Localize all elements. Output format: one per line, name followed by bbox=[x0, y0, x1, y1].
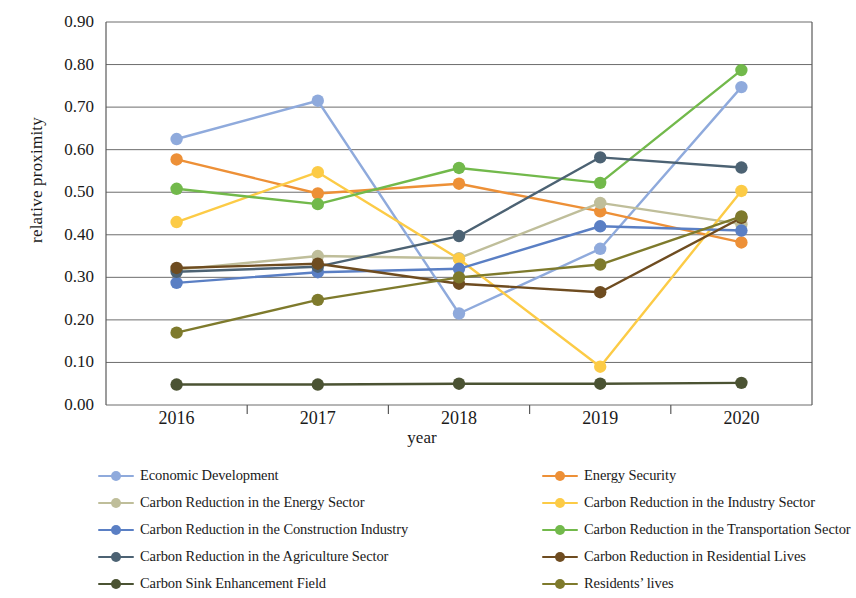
data-point bbox=[170, 216, 182, 228]
legend-item[interactable]: Energy Security bbox=[542, 462, 856, 489]
data-point bbox=[594, 361, 606, 373]
x-axis-title: year bbox=[0, 428, 844, 448]
data-point bbox=[312, 187, 324, 199]
legend-item[interactable]: Economic Development bbox=[98, 462, 518, 489]
data-point bbox=[735, 185, 747, 197]
data-point bbox=[594, 220, 606, 232]
legend-item[interactable]: Carbon Reduction in the Energy Sector bbox=[98, 489, 518, 516]
y-axis-title: relative proximity bbox=[27, 70, 47, 290]
data-point bbox=[594, 378, 606, 390]
legend-dot-icon bbox=[111, 525, 121, 535]
y-axis-tick-label: 0.10 bbox=[22, 353, 94, 370]
data-point bbox=[312, 166, 324, 178]
legend-item[interactable]: Carbon Reduction in the Transportation S… bbox=[542, 516, 856, 543]
chart-legend: Economic DevelopmentCarbon Reduction in … bbox=[0, 462, 844, 598]
x-axis-tick-label: 2019 bbox=[560, 409, 640, 427]
gridlines bbox=[106, 22, 812, 405]
data-point bbox=[170, 277, 182, 289]
legend-label: Carbon Reduction in Residential Lives bbox=[584, 548, 806, 565]
data-point bbox=[735, 236, 747, 248]
data-point bbox=[170, 133, 182, 145]
data-point bbox=[594, 258, 606, 270]
data-point bbox=[735, 64, 747, 76]
legend-dot-icon bbox=[555, 525, 565, 535]
data-point bbox=[594, 243, 606, 255]
y-axis-tick-label: 0.90 bbox=[22, 13, 94, 30]
legend-label: Carbon Sink Enhancement Field bbox=[140, 575, 326, 592]
data-point bbox=[312, 258, 324, 270]
legend-dot-icon bbox=[111, 471, 121, 481]
series-8 bbox=[170, 377, 747, 391]
data-point bbox=[453, 307, 465, 319]
legend-label: Economic Development bbox=[140, 467, 279, 484]
legend-item[interactable]: Carbon Reduction in the Agriculture Sect… bbox=[98, 543, 518, 570]
data-point bbox=[735, 81, 747, 93]
data-point bbox=[170, 153, 182, 165]
y-axis-tick-label: 0.20 bbox=[22, 311, 94, 328]
data-point bbox=[735, 377, 747, 389]
data-point bbox=[735, 210, 747, 222]
data-point bbox=[170, 262, 182, 274]
legend-dot-icon bbox=[555, 498, 565, 508]
legend-marker-icon bbox=[98, 523, 134, 537]
legend-item[interactable]: Carbon Reduction in the Industry Sector bbox=[542, 489, 856, 516]
legend-dot-icon bbox=[555, 471, 565, 481]
legend-label: Carbon Reduction in the Agriculture Sect… bbox=[140, 548, 388, 565]
legend-item[interactable]: Residents’ lives bbox=[542, 570, 856, 597]
legend-marker-icon bbox=[98, 577, 134, 591]
x-axis-tick-label: 2017 bbox=[278, 409, 358, 427]
legend-item[interactable]: Carbon Sink Enhancement Field bbox=[98, 570, 518, 597]
legend-marker-icon bbox=[542, 577, 578, 591]
y-axis-tick-label: 0.00 bbox=[22, 396, 94, 413]
legend-item[interactable]: Carbon Reduction in Residential Lives bbox=[542, 543, 856, 570]
x-axis-tick-label: 2016 bbox=[137, 409, 217, 427]
legend-marker-icon bbox=[542, 523, 578, 537]
legend-dot-icon bbox=[555, 552, 565, 562]
data-point bbox=[453, 178, 465, 190]
x-axis-tick-label: 2020 bbox=[701, 409, 781, 427]
legend-dot-icon bbox=[111, 579, 121, 589]
data-point bbox=[453, 230, 465, 242]
data-point bbox=[170, 326, 182, 338]
legend-marker-icon bbox=[98, 496, 134, 510]
data-point bbox=[594, 177, 606, 189]
legend-column-left: Economic DevelopmentCarbon Reduction in … bbox=[98, 462, 518, 597]
legend-marker-icon bbox=[542, 550, 578, 564]
data-point bbox=[594, 197, 606, 209]
legend-label: Carbon Reduction in the Industry Sector bbox=[584, 494, 815, 511]
data-point bbox=[735, 224, 747, 236]
legend-label: Carbon Reduction in the Construction Ind… bbox=[140, 521, 408, 538]
series-layer bbox=[170, 64, 747, 391]
data-point bbox=[453, 271, 465, 283]
data-point bbox=[312, 294, 324, 306]
legend-marker-icon bbox=[98, 469, 134, 483]
data-point bbox=[594, 286, 606, 298]
data-point bbox=[312, 95, 324, 107]
legend-item[interactable]: Carbon Reduction in the Construction Ind… bbox=[98, 516, 518, 543]
plot-svg bbox=[0, 0, 844, 460]
axis-frame bbox=[106, 22, 812, 405]
legend-marker-icon bbox=[98, 550, 134, 564]
data-point bbox=[735, 161, 747, 173]
data-point bbox=[170, 183, 182, 195]
data-point bbox=[594, 151, 606, 163]
plot-area: 0.000.100.200.300.400.500.600.700.800.90… bbox=[0, 0, 844, 460]
legend-label: Energy Security bbox=[584, 467, 676, 484]
data-point bbox=[453, 378, 465, 390]
data-point bbox=[312, 378, 324, 390]
legend-label: Residents’ lives bbox=[584, 575, 674, 592]
legend-dot-icon bbox=[111, 498, 121, 508]
legend-marker-icon bbox=[542, 496, 578, 510]
legend-label: Carbon Reduction in the Energy Sector bbox=[140, 494, 364, 511]
data-point bbox=[453, 162, 465, 174]
data-point bbox=[170, 378, 182, 390]
legend-dot-icon bbox=[555, 579, 565, 589]
legend-label: Carbon Reduction in the Transportation S… bbox=[584, 521, 851, 538]
legend-column-right: Energy SecurityCarbon Reduction in the I… bbox=[542, 462, 856, 597]
x-axis-tick-label: 2018 bbox=[419, 409, 499, 427]
data-point bbox=[312, 198, 324, 210]
legend-dot-icon bbox=[111, 552, 121, 562]
legend-marker-icon bbox=[542, 469, 578, 483]
